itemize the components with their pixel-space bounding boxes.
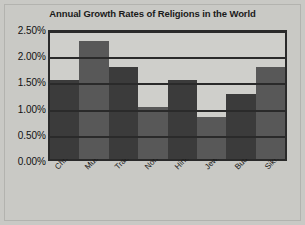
y-axis-tick-label: 2.50%: [0, 25, 46, 36]
bar: [226, 94, 255, 160]
y-axis-tick-label: 1.50%: [0, 77, 46, 88]
bar-series: [50, 32, 285, 159]
chart-figure: Annual Growth Rates of Religions in the …: [0, 0, 305, 225]
bar: [138, 107, 167, 159]
gridline: [50, 136, 285, 138]
y-axis-tick-label: 0.00%: [0, 156, 46, 167]
y-axis: 0.00%0.50%1.00%1.50%2.00%2.50%: [0, 30, 46, 161]
gridline: [50, 57, 285, 59]
bar: [197, 117, 226, 159]
y-axis-tick-label: 2.00%: [0, 51, 46, 62]
y-axis-tick-label: 1.00%: [0, 103, 46, 114]
x-axis: ChristianMuslimTraditionalNon-ReligiousH…: [48, 163, 287, 221]
bar: [168, 80, 197, 159]
bar: [256, 67, 285, 159]
plot-area: [48, 30, 287, 161]
y-axis-tick-label: 0.50%: [0, 129, 46, 140]
bar: [50, 80, 79, 159]
chart-title: Annual Growth Rates of Religions in the …: [0, 8, 305, 19]
bar: [109, 67, 138, 159]
gridline: [50, 110, 285, 112]
gridline: [50, 83, 285, 85]
gridline: [50, 31, 285, 33]
